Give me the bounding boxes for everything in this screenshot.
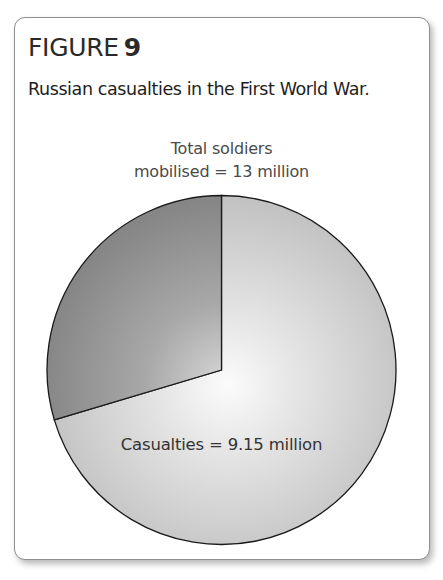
- casualties-label: Casualties = 9.15 million: [0, 433, 443, 457]
- pie-chart: [0, 0, 443, 580]
